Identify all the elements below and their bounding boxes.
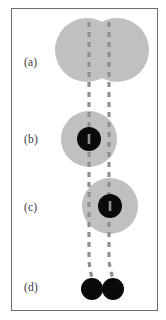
stage-label-a: (a): [24, 56, 37, 68]
stage-label-c: (c): [24, 201, 37, 213]
black-core: [81, 278, 103, 300]
stage-a-grey-body: [55, 18, 149, 82]
figure-root: (a) (b) (c) (d): [0, 0, 166, 320]
black-core: [102, 278, 124, 300]
stage-d-black-cores: [81, 278, 124, 300]
stage-label-d: (d): [24, 281, 38, 293]
stage-label-b: (b): [24, 133, 38, 145]
schematic-canvas: [0, 0, 166, 320]
grey-sphere: [85, 18, 149, 82]
